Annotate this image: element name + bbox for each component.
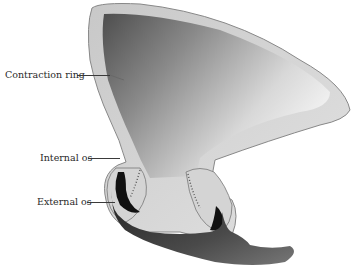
leader-external-os (87, 202, 115, 203)
label-external-os: External os (37, 197, 92, 207)
label-internal-os: Internal os (40, 153, 92, 163)
leader-internal-os (88, 158, 120, 159)
uterus-illustration (0, 0, 360, 272)
label-contraction-ring: Contraction ring (5, 70, 85, 80)
anatomical-figure: Contraction ring Internal os External os (0, 0, 360, 272)
leader-contraction-ring (77, 75, 110, 76)
